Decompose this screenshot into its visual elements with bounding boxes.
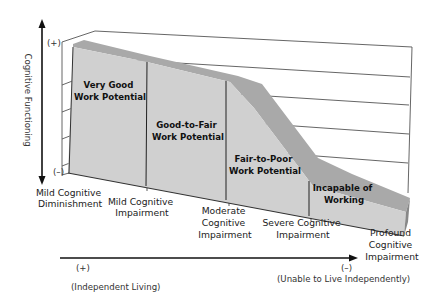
y-axis-label: Cognitive Functioning — [23, 53, 33, 146]
category-moderate-cognitive-impairment: Moderate Cognitive Impairment — [198, 205, 252, 240]
x-axis-arrow — [60, 255, 358, 262]
y-axis-bottom-marker: (–) — [53, 167, 64, 177]
category-mild-cognitive-impairment: Mild Cognitive Impairment — [108, 196, 176, 218]
category-severe-cognitive-impairment: Severe Cognitive Impairment — [262, 217, 343, 240]
x-axis-left-marker: (+) — [76, 263, 90, 273]
y-axis-top-marker: (+) — [47, 38, 61, 48]
x-axis-left-label: (Independent Living) — [71, 282, 160, 292]
y-axis-arrow — [39, 19, 46, 185]
category-mild-cognitive-diminishment: Mild Cognitive Diminishment — [36, 187, 104, 209]
x-axis-right-label: (Unable to Live Independently) — [277, 274, 410, 284]
category-profound-cognitive-impairment: Profound Cognitive Impairment — [365, 227, 419, 262]
work-potential-diagram: Very Good Work Potential Good-to-Fair Wo… — [0, 0, 435, 306]
x-axis-right-marker: (–) — [341, 263, 352, 273]
